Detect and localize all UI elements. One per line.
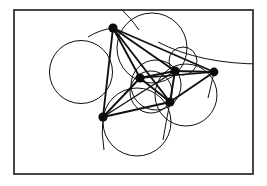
vertex-lower-mid	[165, 97, 174, 106]
vertex-center	[135, 73, 144, 82]
page-background	[0, 0, 267, 186]
vertex-bottom-left	[98, 112, 107, 121]
vertex-top	[108, 23, 117, 32]
figure-container	[0, 0, 267, 186]
geometry-canvas	[0, 0, 267, 186]
vertex-mid-right	[170, 66, 179, 75]
edge-v3-v4	[175, 71, 214, 72]
vertex-far-right	[210, 68, 219, 77]
